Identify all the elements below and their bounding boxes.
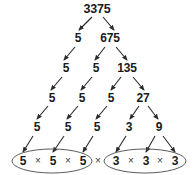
factor-tree-diagram: 33755675551355552755539 555××333×××: [0, 0, 194, 175]
tree-branch-arrow: [23, 136, 33, 152]
tree-node-3375-l0-0: 3375: [83, 3, 110, 16]
tree-node-5-l4-2: 5: [94, 121, 100, 133]
tree-node-3-l4-3: 3: [126, 121, 132, 133]
prime-factor-5-L1: 5: [20, 155, 27, 167]
tree-branch-arrow: [37, 106, 48, 119]
tree-branch-arrow: [51, 77, 62, 90]
prime-factor-5-L2: 5: [50, 155, 57, 167]
tree-node-5-l4-1: 5: [65, 121, 71, 133]
tree-node-27-l3-3: 27: [137, 92, 150, 104]
tree-node-5-l2-0: 5: [63, 62, 69, 74]
tree-node-675-l1-1: 675: [100, 32, 119, 44]
tree-node-5-l3-1: 5: [79, 92, 85, 104]
tree-branch-arrow: [83, 136, 93, 152]
multiplication-sign: ×: [157, 156, 163, 166]
prime-factor-3-L6: 3: [172, 155, 179, 167]
tree-branch-arrow: [111, 77, 121, 90]
prime-factor-5-L3: 5: [80, 155, 87, 167]
tree-branch-arrow: [95, 47, 105, 60]
tree-node-135-l2-2: 135: [117, 62, 136, 74]
tree-node-9-l4-4: 9: [156, 121, 162, 133]
prime-factor-3-L5: 3: [143, 155, 150, 167]
tree-branch-arrow: [67, 106, 78, 119]
multiplication-sign: ×: [35, 156, 41, 166]
tree-branch-arrow: [116, 136, 126, 152]
tree-branch-arrow: [64, 47, 75, 60]
multiplication-sign: ×: [128, 156, 134, 166]
tree-branch-arrow: [163, 136, 175, 152]
tree-branch-arrow: [81, 77, 92, 90]
factor-tree-edges-svg: [0, 0, 194, 175]
tree-node-5-l3-0: 5: [49, 92, 55, 104]
tree-branch-arrow: [130, 106, 139, 119]
tree-branch-arrow: [148, 106, 158, 119]
tree-node-5-l1-0: 5: [75, 32, 81, 44]
tree-node-5-l2-1: 5: [93, 62, 99, 74]
tree-branch-arrow: [79, 17, 92, 30]
tree-branch-arrow: [116, 47, 127, 60]
tree-branch-arrow: [103, 17, 114, 30]
tree-branch-arrow: [133, 77, 144, 90]
prime-factor-3-L4: 3: [113, 155, 120, 167]
tree-node-5-l3-2: 5: [108, 92, 114, 104]
multiplication-sign-between-groups: ×: [95, 156, 101, 166]
multiplication-sign: ×: [65, 156, 71, 166]
tree-node-5-l4-0: 5: [34, 121, 40, 133]
tree-branch-arrow: [96, 106, 107, 119]
